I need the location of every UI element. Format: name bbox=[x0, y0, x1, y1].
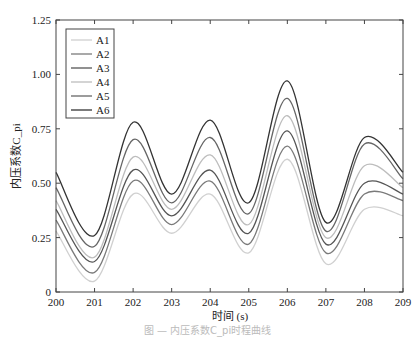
legend-label-a5: A5 bbox=[96, 90, 110, 102]
legend-label-a1: A1 bbox=[96, 34, 109, 46]
x-tick-label: 203 bbox=[163, 296, 180, 308]
y-tick-label: 0.50 bbox=[32, 177, 52, 189]
x-tick-label: 206 bbox=[279, 296, 296, 308]
legend-label-a6: A6 bbox=[96, 104, 110, 116]
y-axis-label: 内压系数C_pi bbox=[9, 123, 22, 188]
y-tick-label: 1.25 bbox=[32, 14, 52, 26]
x-tick-label: 205 bbox=[241, 296, 258, 308]
legend-label-a3: A3 bbox=[96, 62, 110, 74]
x-tick-label: 201 bbox=[86, 296, 103, 308]
x-tick-label: 202 bbox=[125, 296, 142, 308]
y-tick-label: 0.25 bbox=[32, 232, 52, 244]
legend-label-a2: A2 bbox=[96, 48, 109, 60]
y-tick-label: 0.75 bbox=[32, 123, 52, 135]
x-tick-label: 204 bbox=[202, 296, 219, 308]
series-line-a3 bbox=[56, 131, 403, 262]
figure-caption: 图 — 内压系数C_pi时程曲线 bbox=[0, 322, 415, 337]
series-line-a5 bbox=[56, 98, 403, 247]
y-tick-label: 1.00 bbox=[32, 68, 52, 80]
legend-label-a4: A4 bbox=[96, 76, 110, 88]
legend: A1A2A3A4A5A6 bbox=[66, 29, 114, 118]
x-tick-label: 207 bbox=[318, 296, 335, 308]
y-tick-label: 0 bbox=[46, 286, 52, 298]
x-tick-label: 208 bbox=[356, 296, 373, 308]
x-tick-label: 209 bbox=[395, 296, 412, 308]
